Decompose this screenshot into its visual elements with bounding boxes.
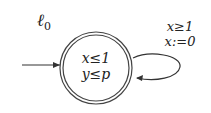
automaton-diagram: ℓ0 x≤1 y≤p x≥1 x:=0 <box>0 0 211 113</box>
self-loop-edge <box>133 54 180 79</box>
invariant-line-2: y≤p <box>81 66 111 82</box>
location-label: ℓ0 <box>37 10 51 33</box>
initial-arrowhead <box>53 62 60 68</box>
edge-reset: x:=0 <box>165 34 196 49</box>
edge-guard: x≥1 <box>167 19 194 34</box>
invariant-line-1: x≤1 <box>82 50 111 66</box>
self-loop-arrowhead <box>136 75 143 81</box>
